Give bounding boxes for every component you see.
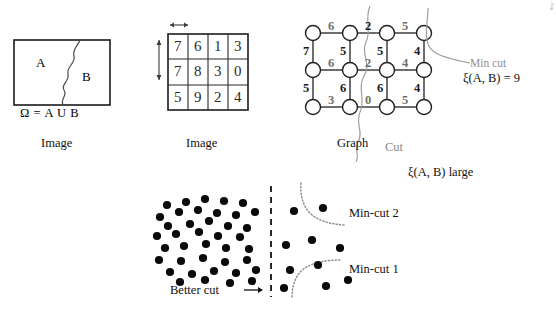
edge-weight-h: 2 (365, 19, 371, 34)
caption-image-set: Image (41, 136, 72, 151)
caption-graph: Graph (337, 136, 368, 151)
min-cut-1-label: Min-cut 1 (349, 262, 399, 277)
scatter-dot (232, 211, 240, 219)
horizontal-spacing-arrow-icon (170, 23, 188, 28)
scatter-dot (156, 213, 164, 221)
vertical-spacing-arrow-icon (157, 40, 162, 80)
scatter-dot (199, 254, 207, 262)
panel-image-set-graphics (14, 40, 110, 105)
edge-weight-h: 5 (402, 93, 408, 108)
scatter-dot (236, 233, 244, 241)
scatter-dot (282, 241, 290, 249)
scatter-dot (201, 195, 209, 203)
grid-cell: 7 (174, 38, 182, 55)
min-cut-pointer-curve (426, 8, 470, 63)
scatter-dot (245, 245, 253, 253)
scatter-dot (177, 257, 185, 265)
edge-weight-v: 5 (377, 44, 383, 59)
scatter-dot (180, 242, 188, 250)
dense-cluster-dots (153, 195, 260, 287)
scatter-dot (210, 267, 218, 275)
scatter-dot (186, 220, 194, 228)
edge-weight-h: 2 (365, 56, 371, 71)
scatter-dot (322, 282, 330, 290)
figure-svg (0, 0, 556, 312)
sparse-dots (280, 204, 352, 292)
scatter-dot (205, 217, 213, 225)
scatter-dot (175, 208, 183, 216)
scatter-dot (319, 204, 327, 212)
scatter-dot (232, 269, 240, 277)
edge-weight-h: 0 (365, 93, 371, 108)
omega-union-label: Ω = A U B (20, 106, 79, 121)
scatter-dot (280, 284, 288, 292)
edge-weight-v: 6 (340, 81, 346, 96)
grid-cell: 1 (214, 38, 222, 55)
grid-cell: 4 (234, 89, 242, 106)
scatter-dot (220, 197, 228, 205)
edge-weight-h: 6 (328, 19, 334, 34)
edge-weight-v: 6 (377, 81, 383, 96)
grid-cell: 9 (194, 89, 202, 106)
region-b-label: B (82, 69, 91, 85)
scatter-dot (155, 256, 163, 264)
scatter-dot (213, 209, 221, 217)
better-cut-label: Better cut (170, 283, 219, 298)
min-cut-2-label: Min-cut 2 (349, 206, 399, 221)
edge-weight-v: 4 (414, 44, 420, 59)
scatter-dot (222, 244, 230, 252)
scatter-dot (194, 206, 202, 214)
scatter-dot (251, 208, 259, 216)
scatter-dot (224, 222, 232, 230)
xi-large-label: ξ(A, B) large (408, 165, 473, 180)
figure-root: A B Ω = A U B Image 7 6 1 3 7 8 3 0 5 9 … (0, 0, 556, 312)
grid-cell: 7 (174, 63, 182, 80)
caption-image-grid: Image (186, 136, 217, 151)
grid-cell: 3 (234, 38, 242, 55)
grid-cell: 2 (214, 89, 222, 106)
scatter-dot (286, 266, 294, 274)
scatter-dot (161, 244, 169, 252)
region-a-label: A (36, 55, 45, 71)
scatter-dot (252, 266, 260, 274)
grid-cell: 8 (194, 63, 202, 80)
scatter-dot (172, 230, 180, 238)
scatter-dot (226, 279, 234, 287)
scatter-dot (290, 207, 298, 215)
scatter-dot (188, 270, 196, 278)
edge-weight-h: 6 (328, 56, 334, 71)
scatter-dot (182, 198, 190, 206)
scatter-dot (314, 261, 322, 269)
scatter-dot (163, 201, 171, 209)
cut-label: Cut (385, 140, 403, 155)
scatter-dot (214, 232, 222, 240)
edge-weight-v: 5 (303, 81, 309, 96)
scatter-dot (308, 236, 316, 244)
scatter-dot (164, 222, 172, 230)
edge-weight-v: 4 (414, 81, 420, 96)
scatter-dot (221, 258, 229, 266)
grid-cell: 5 (174, 89, 182, 106)
image-region-box (14, 40, 110, 105)
edge-weight-h: 5 (402, 19, 408, 34)
better-cut-arrow-icon (244, 287, 263, 293)
scatter-dot (243, 256, 251, 264)
grid-cell: 3 (214, 63, 222, 80)
scatter-dot (336, 244, 344, 252)
edge-weight-v: 5 (340, 44, 346, 59)
min-cut-value: ξ(A, B) = 9 (463, 71, 520, 86)
scatter-dot (153, 232, 161, 240)
panel-scatter-graphics (153, 183, 352, 297)
grid-cell: 0 (234, 63, 242, 80)
scatter-dot (248, 277, 256, 285)
scatter-dot (195, 228, 203, 236)
min-cut-label: Min cut (470, 57, 506, 69)
edge-weight-h: 3 (328, 93, 334, 108)
scatter-dot (243, 224, 251, 232)
scatter-dot (239, 199, 247, 207)
grid-cell: 6 (194, 38, 202, 55)
scatter-dot (344, 276, 352, 284)
scatter-dot (202, 240, 210, 248)
citation-text: Based on J. Shi and J. Malik, Normalized… (544, 0, 555, 14)
scatter-dot (166, 268, 174, 276)
